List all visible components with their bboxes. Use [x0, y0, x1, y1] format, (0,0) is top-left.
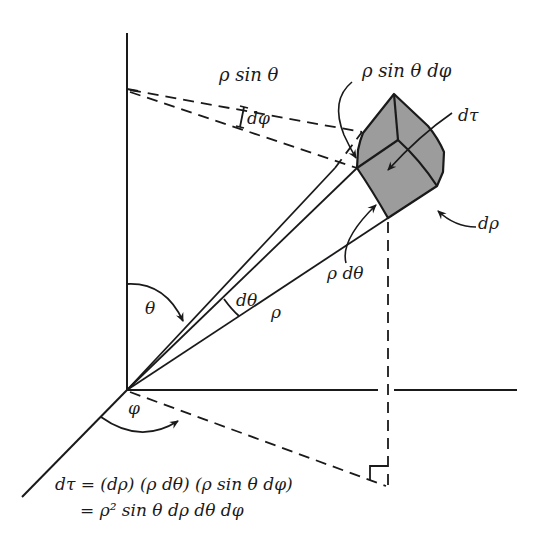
label-rho: ρ: [271, 304, 281, 321]
label-d-phi: dφ: [247, 110, 270, 127]
equation-line-1: dτ = (dρ) (ρ dθ) (ρ sin θ dφ): [55, 476, 293, 493]
rho-d-theta-leader: [345, 205, 376, 263]
label-d-theta: dθ: [236, 292, 257, 309]
rho-sin-theta-lower: [130, 92, 357, 168]
label-rho-sin-theta-d-phi: ρ sin θ dφ: [362, 62, 451, 80]
label-theta: θ: [145, 300, 155, 317]
ray-middle: [127, 168, 357, 390]
label-d-tau: dτ: [458, 107, 478, 124]
axes: [22, 33, 517, 497]
projection-lines: [130, 90, 388, 487]
equation-line-2: = ρ² sin θ dρ dθ dφ: [80, 502, 244, 519]
spherical-volume-element-diagram: ρ sin θ dφ ρ sin θ dφ dτ dρ ρ dθ θ dθ ρ …: [0, 0, 545, 534]
label-rho-d-theta: ρ dθ: [327, 265, 364, 282]
rho-sin-theta-d-phi-leader: [339, 82, 356, 158]
label-d-rho: dρ: [478, 215, 499, 232]
d-rho-leader: [438, 211, 476, 227]
phi-projection: [130, 392, 386, 486]
angle-arcs: [101, 284, 239, 432]
phi-arc: [101, 417, 178, 432]
ray-upper: [127, 168, 335, 390]
ray-rho: [127, 218, 388, 390]
rho-sin-theta-upper: [130, 90, 362, 132]
right-angle-marker: [370, 466, 388, 480]
label-phi: φ: [128, 400, 140, 417]
label-rho-sin-theta: ρ sin θ: [219, 66, 278, 84]
